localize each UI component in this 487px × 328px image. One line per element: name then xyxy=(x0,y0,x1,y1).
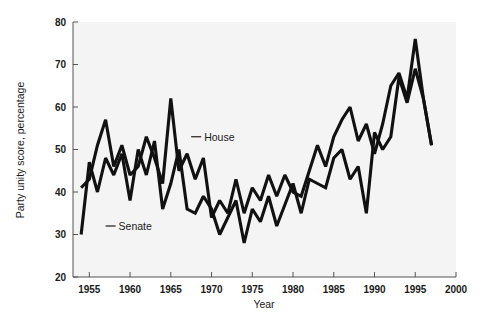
party-unity-line-chart: 20304050607080 1955196019651970197519801… xyxy=(0,0,487,328)
y-tick-label: 70 xyxy=(55,59,67,70)
x-axis-title: Year xyxy=(253,298,275,310)
x-tick-label: 1965 xyxy=(160,284,183,295)
x-tick-label: 1960 xyxy=(119,284,142,295)
x-tick-label: 1975 xyxy=(241,284,264,295)
y-tick-label: 50 xyxy=(55,144,67,155)
y-tick-label: 60 xyxy=(55,102,67,113)
x-tick-label: 1985 xyxy=(323,284,346,295)
y-tick-label: 20 xyxy=(55,272,67,283)
x-tick-label: 1980 xyxy=(282,284,305,295)
x-tick-label: 1990 xyxy=(363,284,386,295)
y-tick-label: 80 xyxy=(55,17,67,28)
series-label-house: House xyxy=(204,131,235,143)
x-tick-label: 1995 xyxy=(404,284,427,295)
y-axis-title: Party unity score, percentage xyxy=(14,82,26,219)
chart-figure: 20304050607080 1955196019651970197519801… xyxy=(0,0,487,328)
y-tick-label: 40 xyxy=(55,187,67,198)
x-tick-label: 1970 xyxy=(200,284,223,295)
series-label-senate: Senate xyxy=(119,220,152,232)
plot-background xyxy=(73,22,456,277)
y-tick-label: 30 xyxy=(55,229,67,240)
x-tick-label: 1955 xyxy=(78,284,101,295)
x-tick-label: 2000 xyxy=(445,284,468,295)
